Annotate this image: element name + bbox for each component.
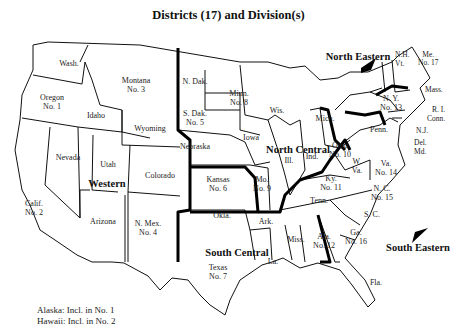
label-sdak: S. Dak.No. 5 [183,110,207,127]
label-ri: R. I. [432,106,445,114]
label-nh: N.H. [395,51,410,59]
label-kansas: KansasNo. 6 [206,176,229,193]
footnote-alaska: Alaska: Incl. in No. 1 [37,305,114,315]
label-iowa: Iowa [243,134,259,143]
label-nevada: Nevada [56,154,80,163]
label-oregon: OregonNo. 1 [40,94,64,111]
label-conn: Conn. [427,115,445,123]
label-sc: S. C. [364,211,380,220]
label-wash: Wash. [59,60,79,69]
label-ohio: OhioNo. 10 [329,142,351,159]
label-calif: Calif.No. 2 [25,200,43,217]
label-ill: Ill. [284,157,293,166]
label-arizona: Arizona [90,218,116,227]
label-ny: N. Y.No. 13 [380,95,402,112]
label-idaho: Idaho [87,112,105,121]
label-va: Va.No. 14 [375,160,397,177]
label-mass: Mass. [425,86,443,94]
label-okla: Okla. [213,212,231,221]
label-wis: Wis. [270,107,285,116]
label-ala: Ala.No. 12 [313,233,335,250]
division-north-eastern: North Eastern [326,51,390,62]
label-wva: W.Va. [352,158,362,175]
division-western: Western [88,178,125,189]
label-ga: Ga.No. 16 [345,229,367,246]
label-montana: MontanaNo. 3 [122,77,150,94]
label-ky: Ky.No. 11 [320,175,341,192]
boundary-penn [345,112,385,125]
label-ndak: N. Dak. [182,78,207,87]
label-nmex: N. Mex.No. 4 [135,220,161,237]
label-mo: Mo.No. 9 [253,176,271,193]
footnote-hawaii: Hawaii: Incl. in No. 2 [37,316,115,326]
label-nc: N. C.No. 15 [371,185,393,202]
label-colorado: Colorado [145,172,175,181]
label-del: Del. [414,139,427,147]
label-miss: Miss. [287,236,305,245]
division-north-central: North Central [266,144,330,155]
label-tenn: Tenn. [310,197,328,206]
label-mich: Mich. [316,115,335,124]
label-vt: Vt. [395,60,404,68]
label-texas: TexasNo. 7 [209,264,228,281]
label-me: Me.No. 17 [418,51,438,67]
label-fla: Fla. [370,279,382,288]
label-minn: Minn.No. 8 [229,90,248,107]
label-wyoming: Wyoming [134,125,166,134]
label-utah: Utah [100,161,116,170]
label-nj: N.J. [416,127,428,135]
label-ark: Ark. [259,218,273,227]
label-la: La. [268,258,278,267]
label-nebraska: Nebraska [180,143,210,152]
label-penn: Penn. [370,126,388,135]
division-south-central: South Central [205,247,268,258]
label-md: Md. [414,148,426,156]
division-south-eastern: South Eastern [386,242,450,253]
